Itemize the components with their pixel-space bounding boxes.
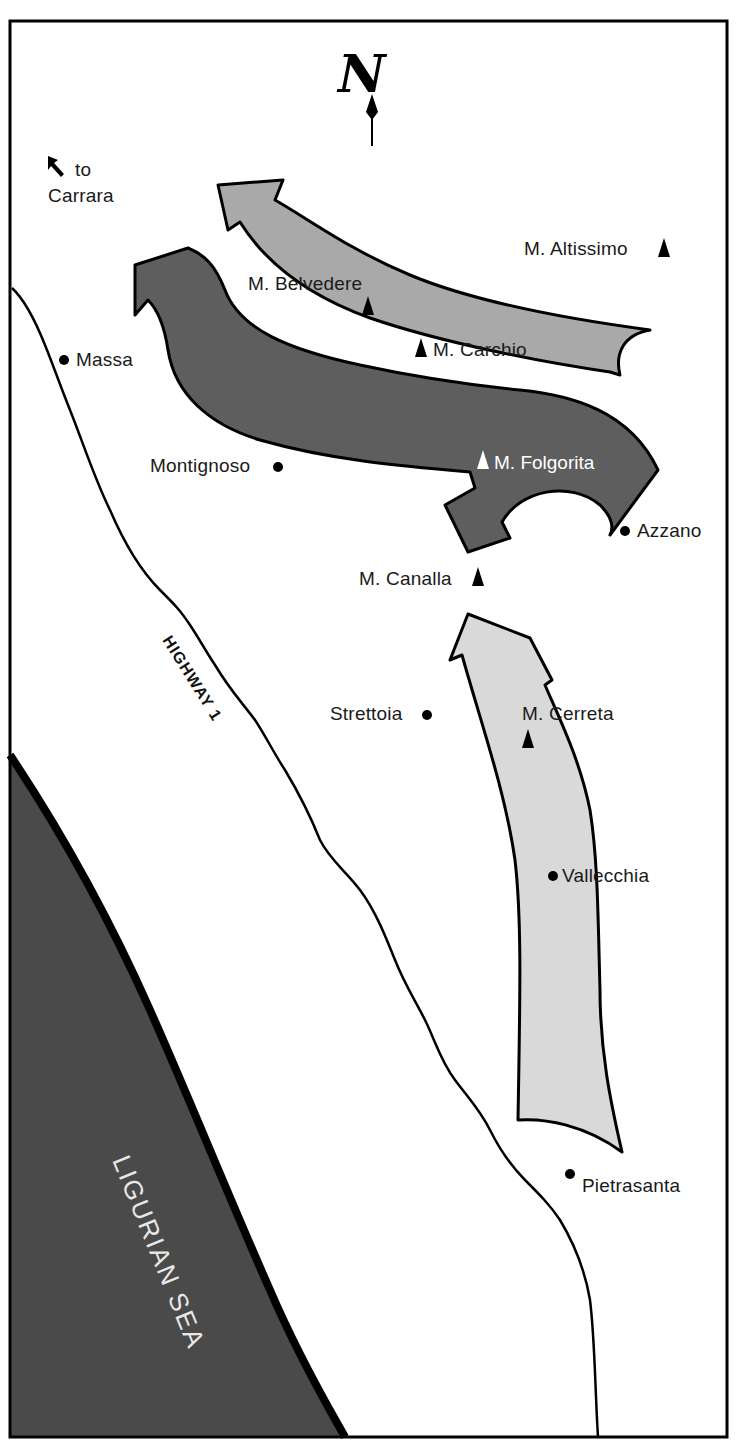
svg-text:M. Folgorita: M. Folgorita	[494, 452, 595, 473]
svg-text:M. Altissimo: M. Altissimo	[524, 238, 628, 259]
svg-text:Vallecchia: Vallecchia	[562, 865, 649, 886]
svg-text:Pietrasanta: Pietrasanta	[582, 1175, 681, 1196]
svg-text:Massa: Massa	[76, 349, 133, 370]
town-dot-icon	[565, 1169, 575, 1179]
svg-text:Carrara: Carrara	[48, 185, 114, 206]
svg-text:M. Carchio: M. Carchio	[433, 339, 527, 360]
svg-text:M. Belvedere: M. Belvedere	[248, 273, 362, 294]
town-pietrasanta: Pietrasanta	[565, 1169, 681, 1196]
svg-text:Montignoso: Montignoso	[150, 455, 250, 476]
peak-carchio: M. Carchio	[415, 338, 527, 360]
town-dot-icon	[620, 526, 630, 536]
peak-icon	[658, 238, 670, 257]
svg-text:Azzano: Azzano	[637, 520, 702, 541]
town-dot-icon	[548, 871, 558, 881]
peak-icon	[415, 338, 427, 357]
northwest-arrow-icon	[48, 156, 64, 177]
town-massa: Massa	[59, 349, 133, 370]
north-arrow-icon: N	[336, 43, 388, 146]
town-dot-icon	[273, 462, 283, 472]
town-dot-icon	[422, 710, 432, 720]
town-vallecchia: Vallecchia	[548, 865, 649, 886]
peak-icon	[472, 567, 484, 586]
to-carrara-note: to Carrara	[48, 156, 114, 206]
svg-text:to: to	[75, 159, 91, 180]
svg-text:Strettoia: Strettoia	[330, 703, 403, 724]
peak-canalla: M. Canalla	[359, 567, 484, 589]
highway-1-label: HIGHWAY 1	[159, 633, 225, 724]
svg-text:M. Canalla: M. Canalla	[359, 568, 452, 589]
town-strettoia: Strettoia	[330, 703, 432, 724]
svg-text:M. Cerreta: M. Cerreta	[522, 703, 614, 724]
town-dot-icon	[59, 355, 69, 365]
battle-map: HIGHWAY 1 N to Carrara M. Altissimo M. B…	[0, 0, 737, 1442]
svg-text:N: N	[336, 43, 388, 104]
town-montignoso: Montignoso	[150, 455, 283, 476]
peak-altissimo: M. Altissimo	[524, 238, 670, 259]
peak-folgorita: M. Folgorita	[477, 450, 595, 473]
town-azzano: Azzano	[620, 520, 702, 541]
